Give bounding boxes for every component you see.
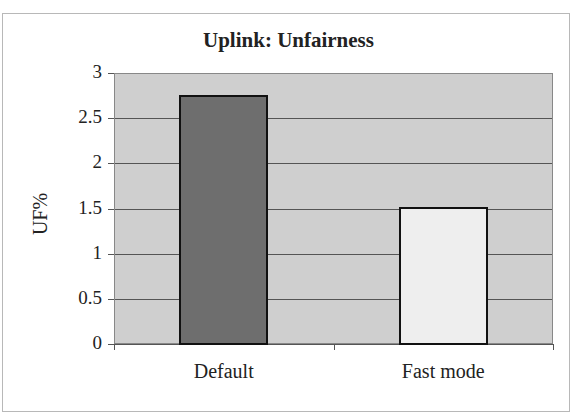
y-tick-label: 3 xyxy=(50,61,102,83)
x-tick-mark xyxy=(334,344,335,350)
y-tick-mark xyxy=(108,299,114,300)
y-tick-mark xyxy=(108,209,114,210)
x-tick-mark xyxy=(114,344,115,350)
y-tick-label: 2 xyxy=(50,151,102,173)
x-tick-label: Default xyxy=(124,360,324,383)
bar-default xyxy=(179,95,268,345)
y-tick-label: 2.5 xyxy=(50,106,102,128)
y-tick-mark xyxy=(108,163,114,164)
y-axis-label: UF% xyxy=(29,193,52,235)
chart-title: Uplink: Unfairness xyxy=(0,28,577,53)
y-tick-label: 0.5 xyxy=(50,287,102,309)
y-tick-label: 1.5 xyxy=(50,197,102,219)
y-tick-mark xyxy=(108,73,114,74)
x-tick-label: Fast mode xyxy=(343,360,543,383)
y-tick-mark xyxy=(108,254,114,255)
y-tick-mark xyxy=(108,118,114,119)
bar-fast-mode xyxy=(399,207,488,345)
x-tick-mark xyxy=(553,344,554,350)
y-tick-label: 0 xyxy=(50,332,102,354)
y-tick-label: 1 xyxy=(50,242,102,264)
